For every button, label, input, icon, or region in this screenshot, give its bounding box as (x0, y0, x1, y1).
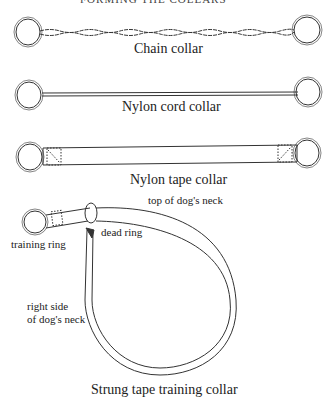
nylon-tape-collar-drawing (16, 138, 321, 172)
caption-nylon-cord-collar: Nylon cord collar (122, 99, 221, 115)
caption-strung-tape-collar: Strung tape training collar (91, 382, 238, 398)
label-dead-ring: dead ring (101, 226, 142, 239)
caption-nylon-tape-collar: Nylon tape collar (130, 172, 227, 188)
label-right-side-2: of dog's neck (27, 313, 85, 326)
label-right-side-1: right side (27, 300, 68, 313)
label-top-of-neck: top of dog's neck (148, 194, 223, 207)
label-training-ring: training ring (11, 238, 66, 251)
caption-chain-collar: Chain collar (134, 41, 203, 57)
